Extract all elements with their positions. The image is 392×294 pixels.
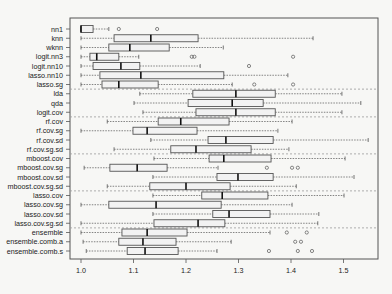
y-axis-label: lda xyxy=(53,89,63,98)
box-mboost-cov-sd xyxy=(153,174,354,181)
outlier-point xyxy=(296,166,299,169)
x-tick-label: 1.4 xyxy=(286,266,296,275)
box-ensemble-comb-a xyxy=(83,238,302,245)
outlier-point xyxy=(292,83,295,86)
box-iqr xyxy=(81,26,93,33)
box-iqr xyxy=(110,164,167,171)
y-axis-label: lasso.sg xyxy=(37,80,63,89)
box-ensemble xyxy=(81,229,308,236)
box-iqr xyxy=(154,220,225,227)
outlier-point xyxy=(292,55,295,58)
box-iqr xyxy=(100,72,224,79)
box-iqr xyxy=(114,35,198,42)
box-knn xyxy=(81,35,313,42)
outlier-point xyxy=(299,240,302,243)
outlier-point xyxy=(253,83,256,86)
box-mboost-cov xyxy=(154,155,345,162)
box-iqr xyxy=(217,174,273,181)
y-axis-label: mboost.cov.sg.sd xyxy=(8,182,63,191)
box-rf-cov-sg-sd xyxy=(114,146,289,153)
box-lasso-cov xyxy=(153,192,344,199)
box-iqr xyxy=(209,155,271,162)
y-axis-label: rf.cov.sd xyxy=(36,136,63,145)
outlier-point xyxy=(305,231,308,234)
box-iqr xyxy=(133,127,197,134)
y-axis-label: ensemble.comb.a xyxy=(6,237,63,246)
x-tick-label: 1.0 xyxy=(76,266,86,275)
y-axis-label: rf.cov.sg xyxy=(36,126,63,135)
outlier-point xyxy=(265,166,268,169)
box-iqr xyxy=(171,146,251,153)
box-iqr xyxy=(208,137,273,144)
box-wknn xyxy=(81,44,223,51)
box-iqr xyxy=(102,81,158,88)
y-axis-label: logit.nn10 xyxy=(32,62,63,71)
outlier-point xyxy=(156,27,159,30)
y-axis-label: ensemble xyxy=(32,228,63,237)
box-iqr xyxy=(93,63,140,70)
y-axis-label: lasso.cov.sg xyxy=(24,200,63,209)
outlier-point xyxy=(117,27,120,30)
y-axis-label: mboost.cov xyxy=(26,154,63,163)
box-lasso-sg xyxy=(81,81,295,88)
outlier-point xyxy=(294,240,297,243)
box-lasso-cov-sg-sd xyxy=(81,220,318,227)
y-axis-label: lasso.cov.sd xyxy=(24,210,63,219)
y-axis-label: logit.cov xyxy=(37,108,64,117)
y-axis-label: mboost.cov.sd xyxy=(17,173,63,182)
boxplot-chart: nn1knnwknnlogit.nn3logit.nn10lasso.nn10l… xyxy=(0,0,392,294)
y-axis-label: wknn xyxy=(45,43,63,52)
box-iqr xyxy=(193,90,275,97)
y-axis-label: nn1 xyxy=(51,25,63,34)
outlier-point xyxy=(310,249,313,252)
y-axis-label: lasso.cov xyxy=(33,191,63,200)
box-lasso-cov-sg xyxy=(81,201,292,208)
box-lda xyxy=(140,90,342,97)
y-axis-label: qda xyxy=(51,99,63,108)
box-iqr xyxy=(122,229,187,236)
box-mboost-cov-sg-sd xyxy=(107,183,296,190)
box-iqr xyxy=(109,44,169,51)
x-axis: 1.01.11.21.31.41.5 xyxy=(76,259,349,275)
box-iqr xyxy=(119,238,176,245)
box-iqr xyxy=(202,192,268,199)
box-iqr xyxy=(90,53,119,60)
y-axis-label: knn xyxy=(51,34,63,43)
y-axis-label: lasso.nn10 xyxy=(28,71,63,80)
x-tick-label: 1.1 xyxy=(129,266,139,275)
box-logit-nn10 xyxy=(81,63,251,70)
box-iqr xyxy=(188,100,263,107)
box-logit-nn3 xyxy=(81,53,295,60)
chart-canvas: nn1knnwknnlogit.nn3logit.nn10lasso.nn10l… xyxy=(0,0,392,294)
outlier-point xyxy=(290,166,293,169)
y-axis-label: rf.cov xyxy=(45,117,63,126)
box-mboost-cov-sg xyxy=(84,164,299,171)
box-lasso-cov-sd xyxy=(153,211,319,218)
box-iqr xyxy=(158,118,229,125)
box-series xyxy=(81,26,368,255)
box-iqr xyxy=(213,211,270,218)
y-axis-label: logit.nn3 xyxy=(36,52,63,61)
x-tick-label: 1.2 xyxy=(181,266,191,275)
outlier-point xyxy=(267,249,270,252)
box-rf-cov-sd xyxy=(151,137,368,144)
outlier-point xyxy=(247,64,250,67)
outlier-point xyxy=(285,231,288,234)
x-tick-label: 1.5 xyxy=(339,266,349,275)
y-axis-label: ensemble.comb.s xyxy=(7,247,64,256)
y-axis-label: rf.cov.sg.sd xyxy=(27,145,63,154)
box-rf-cov xyxy=(107,118,292,125)
y-axis-labels: nn1knnwknnlogit.nn3logit.nn10lasso.nn10l… xyxy=(6,25,70,256)
box-rf-cov-sg xyxy=(81,127,278,134)
box-logit-cov xyxy=(143,109,342,116)
y-axis-label: mboost.cov.sg xyxy=(17,163,63,172)
box-lasso-nn10 xyxy=(81,72,288,79)
box-iqr xyxy=(150,183,230,190)
box-iqr xyxy=(109,201,221,208)
x-tick-label: 1.3 xyxy=(234,266,244,275)
y-axis-label: lasso.cov.sg.sd xyxy=(14,219,63,228)
box-nn1 xyxy=(81,26,159,33)
box-iqr xyxy=(127,248,178,255)
outlier-point xyxy=(296,249,299,252)
box-qda xyxy=(134,100,361,107)
